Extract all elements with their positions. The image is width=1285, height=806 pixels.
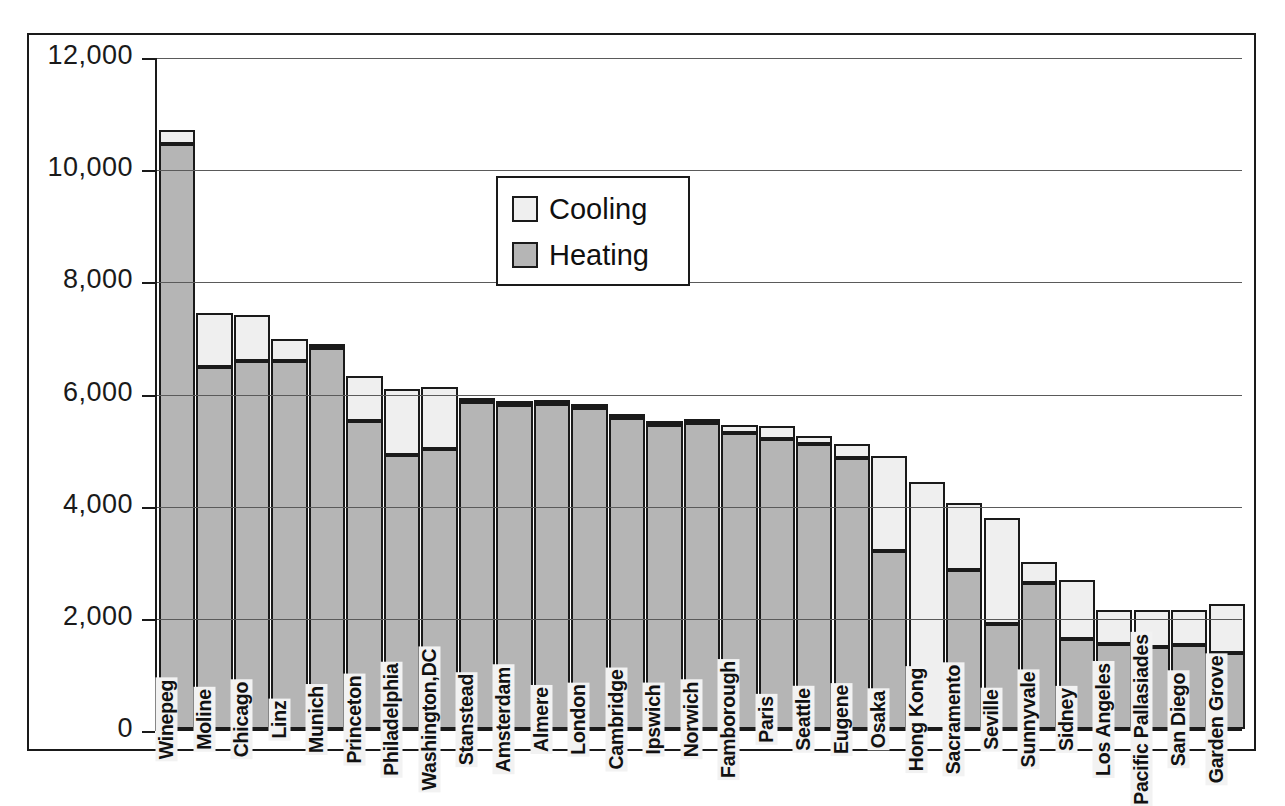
bar: Osaka: [871, 456, 907, 729]
bar-segment-cooling: [946, 503, 982, 570]
bar: Paris: [759, 426, 795, 729]
legend-item-cooling: Cooling: [512, 186, 688, 232]
bar: Seattle: [796, 436, 832, 729]
bar-segment-cooling: [459, 398, 495, 402]
bar-segment-cooling: [534, 400, 570, 404]
y-axis-tick-label: 2,000: [63, 601, 133, 632]
bar-category-label: Norwich: [680, 679, 702, 759]
bar-category-label: Philadelphia: [381, 661, 403, 777]
bar-category-label: Cambridge: [605, 667, 627, 771]
bar-category-label: Garden Grove: [1205, 653, 1227, 785]
bar: Washington,DC: [421, 387, 457, 729]
bar-segment-cooling: [684, 419, 720, 423]
bar-segment-cooling: [571, 404, 607, 408]
bar: Garden Grove: [1209, 604, 1245, 729]
bar: Sidney: [1059, 580, 1095, 729]
bar-segment-cooling: [871, 456, 907, 550]
y-axis-tick-label: 10,000: [47, 152, 133, 183]
bar-segment-heating: [534, 404, 570, 729]
bar: Chicago: [234, 315, 270, 729]
bar-category-label: Amsterdam: [493, 664, 515, 774]
bar-segment-cooling: [384, 389, 420, 455]
bar-segment-cooling: [271, 339, 307, 360]
bar-segment-cooling: [1021, 562, 1057, 583]
bar-segment-heating: [159, 144, 195, 729]
bar: Winepeg: [159, 130, 195, 729]
bar-category-label: Chicago: [231, 679, 253, 759]
bar-segment-cooling: [646, 421, 682, 425]
bar: Eugene: [834, 444, 870, 729]
bar: Cambridge: [609, 416, 645, 729]
plot-area: WinepegMolineChicagoLinzMunichPrincetonP…: [155, 58, 1242, 731]
bar: Munich: [309, 344, 345, 729]
legend-swatch-heating-icon: [512, 242, 538, 268]
bar-segment-cooling: [609, 414, 645, 418]
bar: Amsterdam: [496, 403, 532, 729]
bar: Philadelphia: [384, 389, 420, 729]
bar-category-label: Princeton: [343, 673, 365, 765]
bar-category-label: Winepeg: [156, 677, 178, 761]
bar-category-label: Stanstead: [456, 671, 478, 766]
bar-segment-cooling: [1096, 610, 1132, 645]
bar-segment-cooling: [421, 387, 457, 449]
bar-category-label: Seville: [980, 687, 1002, 751]
bar-category-label: Moline: [193, 687, 215, 752]
bar: Almere: [534, 402, 570, 729]
bar-segment-heating: [759, 439, 795, 730]
bar-segment-cooling: [309, 344, 345, 348]
legend-label-heating: Heating: [549, 241, 649, 270]
bar: San Diego: [1171, 610, 1207, 729]
bar-category-label: Sacramento: [943, 662, 965, 776]
bar: Moline: [196, 313, 232, 729]
bar-category-label: Seattle: [793, 686, 815, 753]
y-axis-tick-label: 0: [117, 713, 133, 744]
legend-swatch-cooling-icon: [512, 196, 538, 222]
bar: Seville: [984, 518, 1020, 729]
y-axis-tick: [142, 58, 155, 60]
bar-category-label: Washington,DC: [418, 646, 440, 792]
y-axis-tick: [142, 731, 155, 733]
bar-segment-heating: [571, 408, 607, 729]
bar-category-label: Eugene: [830, 682, 852, 755]
y-axis-tick-label: 8,000: [63, 264, 133, 295]
chart-legend: Cooling Heating: [496, 176, 690, 286]
bar-category-label: Paris: [755, 694, 777, 745]
bar-segment-cooling: [159, 130, 195, 144]
bar-category-label: Almere: [530, 685, 552, 754]
y-axis-tick-label: 4,000: [63, 489, 133, 520]
bar-segment-heating: [309, 348, 345, 729]
y-axis-tick: [142, 395, 155, 397]
bar-category-label: London: [568, 682, 590, 756]
bar-category-label: Osaka: [868, 688, 890, 750]
bar-segment-cooling: [834, 444, 870, 459]
gridline: [157, 619, 1242, 620]
bar-segment-heating: [234, 361, 270, 729]
y-axis-tick: [142, 507, 155, 509]
gridline: [157, 507, 1242, 508]
bar-segment-cooling: [759, 426, 795, 438]
legend-label-cooling: Cooling: [549, 195, 647, 224]
gridline: [157, 395, 1242, 396]
bar: Stanstead: [459, 399, 495, 729]
bar-category-label: Sunnyvale: [1018, 669, 1040, 769]
bar-segment-cooling: [1209, 604, 1245, 653]
bar-segment-cooling: [496, 401, 532, 405]
bar: Sacramento: [946, 503, 982, 729]
bar-category-label: Sidney: [1055, 686, 1077, 753]
bar-category-label: San Diego: [1168, 670, 1190, 768]
bar: Hong Kong: [909, 482, 945, 729]
bar-segment-heating: [196, 367, 232, 729]
bar-category-label: Ipswich: [643, 682, 665, 756]
legend-item-heating: Heating: [512, 232, 688, 278]
gridline: [157, 58, 1242, 59]
bar-segment-cooling: [234, 315, 270, 361]
bar: Los Angeles: [1096, 610, 1132, 729]
bar-segment-heating: [271, 361, 307, 729]
y-axis-tick-label: 6,000: [63, 377, 133, 408]
bar-category-label: Famborough: [718, 658, 740, 779]
bar: Linz: [271, 339, 307, 729]
bar: Pacific Pallasiades: [1134, 610, 1170, 729]
gridline: [157, 170, 1242, 171]
bar-category-label: Munich: [306, 683, 328, 754]
y-axis-tick-label: 12,000: [47, 40, 133, 71]
